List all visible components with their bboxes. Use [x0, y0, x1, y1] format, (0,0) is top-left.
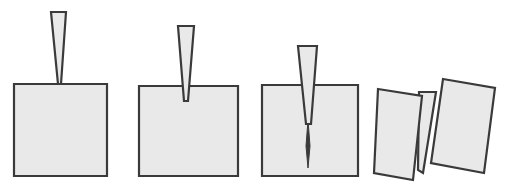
panel-3 — [262, 46, 358, 176]
diagram-canvas — [0, 0, 509, 194]
panel-4 — [374, 79, 495, 180]
wedge-splitting-diagram — [0, 0, 509, 194]
panel-4-right-fragment — [431, 79, 495, 173]
panel-4-left-fragment — [374, 89, 422, 180]
panel-1-wedge — [51, 12, 66, 84]
panel-1 — [14, 12, 107, 176]
panel-1-block — [14, 84, 107, 176]
panel-2 — [139, 26, 238, 176]
